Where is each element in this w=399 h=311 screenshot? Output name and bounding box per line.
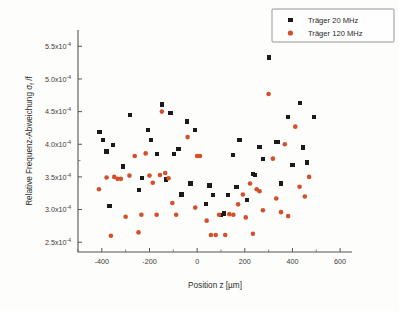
data-point-circle (271, 156, 276, 161)
data-point-circle (104, 175, 109, 180)
data-point-circle (163, 171, 168, 176)
data-point-circle (251, 231, 256, 236)
data-point-square (226, 193, 230, 197)
data-point-square (234, 185, 238, 189)
data-point-square (160, 102, 164, 106)
data-point-circle (266, 92, 271, 97)
y-tick-label: 5.0x10-4 (45, 74, 71, 84)
data-point-square (104, 149, 108, 153)
legend-label: Träger 120 MHz (308, 29, 363, 38)
x-tick-label: 600 (334, 257, 346, 266)
y-tick-label: 4.0x10-4 (45, 139, 71, 149)
data-point-square (185, 119, 189, 123)
data-point-circle (283, 142, 288, 147)
x-tick-label: -200 (142, 257, 156, 266)
x-tick-label: -400 (95, 257, 109, 266)
data-point-circle (147, 173, 152, 178)
data-point-square (121, 164, 125, 168)
axis-ticks (78, 46, 340, 252)
data-point-circle (170, 201, 175, 206)
data-point-circle (136, 230, 141, 235)
data-point-circle (293, 124, 298, 129)
data-point-square (137, 188, 141, 192)
data-point-circle (286, 214, 291, 219)
data-point-circle (274, 196, 279, 201)
data-point-circle (174, 212, 179, 217)
data-points (97, 55, 317, 238)
data-point-square (276, 140, 280, 144)
x-tick-label: 400 (286, 257, 298, 266)
data-point-circle (231, 212, 236, 217)
data-point-square (101, 138, 105, 142)
data-point-square (207, 183, 211, 187)
data-point-circle (261, 208, 266, 213)
data-point-circle (193, 205, 198, 210)
x-tick-label: 0 (195, 257, 199, 266)
legend-marker-circle (288, 30, 293, 35)
legend-label: Träger 20 MHz (308, 16, 359, 25)
data-point-square (290, 163, 294, 167)
data-point-circle (132, 154, 137, 159)
y-tick-label: 3.0x10-4 (45, 204, 71, 214)
y-axis-label: Relative Frequenz-Abweichung σf /f (25, 75, 35, 205)
y-tick-label: 2.5x10-4 (45, 237, 71, 247)
data-point-square (211, 193, 215, 197)
x-tick-label: 200 (239, 257, 251, 266)
series-1 (97, 55, 316, 217)
data-point-circle (223, 233, 228, 238)
data-point-circle (109, 233, 114, 238)
data-point-square (222, 211, 226, 215)
data-point-square (305, 160, 309, 164)
data-point-square (231, 153, 235, 157)
axis-tick-labels: -400-20002004006002.5x10-43.0x10-43.5x10… (45, 41, 346, 266)
data-point-square (155, 152, 159, 156)
data-point-circle (158, 173, 163, 178)
data-point-square (149, 138, 153, 142)
data-point-circle (209, 233, 214, 238)
x-axis-label: Position z [µm] (188, 281, 242, 290)
data-point-circle (139, 212, 144, 217)
data-point-square (253, 173, 257, 177)
data-point-square (128, 113, 132, 117)
data-point-circle (119, 177, 124, 182)
data-point-square (107, 204, 111, 208)
data-point-circle (151, 180, 156, 185)
data-point-square (279, 181, 283, 185)
data-point-circle (185, 135, 190, 140)
data-point-circle (213, 233, 218, 238)
data-point-circle (227, 212, 232, 217)
data-point-square (237, 138, 241, 142)
data-point-circle (241, 192, 246, 197)
data-point-square (267, 55, 271, 59)
data-point-square (188, 181, 192, 185)
chart-figure: -400-20002004006002.5x10-43.0x10-43.5x10… (0, 0, 399, 311)
data-point-square (140, 176, 144, 180)
data-point-circle (198, 154, 203, 159)
y-tick-label: 4.5x10-4 (45, 106, 71, 116)
data-point-square (312, 115, 316, 119)
data-point-square (176, 147, 180, 151)
data-point-square (168, 111, 172, 115)
chart-legend: Träger 20 MHzTräger 120 MHz (272, 9, 394, 42)
legend-marker-square (288, 18, 293, 23)
data-point-square (179, 192, 183, 196)
data-point-square (298, 101, 302, 105)
data-point-circle (154, 212, 159, 217)
data-point-square (286, 115, 290, 119)
scatter-plot: -400-20002004006002.5x10-43.0x10-43.5x10… (0, 0, 399, 311)
data-point-circle (127, 173, 132, 178)
data-point-square (193, 128, 197, 132)
data-point-circle (243, 215, 248, 220)
data-point-circle (166, 176, 171, 181)
data-point-circle (123, 214, 128, 219)
data-point-circle (217, 212, 222, 217)
y-tick-label: 5.5x10-4 (45, 41, 71, 51)
y-tick-label: 3.5x10-4 (45, 172, 71, 182)
data-point-circle (204, 218, 209, 223)
data-point-square (301, 145, 305, 149)
data-point-circle (236, 202, 241, 207)
data-point-square (257, 145, 261, 149)
data-point-circle (279, 210, 284, 215)
data-point-square (204, 202, 208, 206)
axes (78, 30, 352, 252)
